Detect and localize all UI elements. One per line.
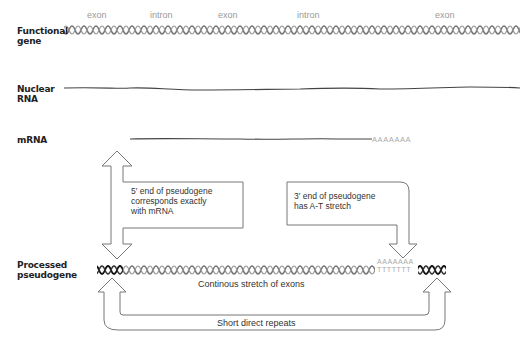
processed-pseudogene-label: Processed pseudogene	[17, 260, 77, 280]
label-line: Functional	[17, 26, 68, 36]
label-line: gene	[17, 36, 68, 46]
annotation-line: 5′ end of pseudogene	[131, 186, 212, 196]
five-prime-annotation: 5′ end of pseudogene corresponds exactly…	[131, 186, 212, 216]
continuous-stretch-label: Continous stretch of exons	[198, 279, 305, 289]
segment-label-intron: intron	[150, 10, 173, 20]
nuclear-rna-strand	[64, 87, 520, 90]
segment-label-exon: exon	[218, 10, 238, 20]
label-line: Processed	[17, 260, 77, 270]
label-line: pseudogene	[17, 270, 77, 280]
annotation-line: with mRNA	[131, 206, 212, 216]
segment-label-intron: intron	[297, 10, 320, 20]
functional-gene-helix	[64, 23, 520, 35]
three-prime-annotation: 3′ end of pseudogene has A-T stretch	[294, 191, 375, 211]
nuclear-rna-label: Nuclear RNA	[17, 84, 55, 104]
segment-label-exon: exon	[435, 10, 455, 20]
short-direct-repeats-label: Short direct repeats	[217, 318, 296, 328]
pseudogene-poly-a: AAAAAAA	[377, 258, 414, 265]
functional-gene-label: Functional gene	[17, 26, 68, 46]
pseudogene-poly-t: TTTTTTT	[377, 266, 411, 273]
mrna-poly-a-tail: AAAAAAA	[372, 135, 411, 144]
mrna-strand	[130, 139, 372, 140]
mrna-label: mRNA	[17, 135, 47, 145]
annotation-line: has A-T stretch	[294, 201, 375, 211]
segment-label-exon: exon	[87, 10, 107, 20]
label-line: Nuclear	[17, 84, 55, 94]
annotation-line: corresponds exactly	[131, 196, 212, 206]
annotation-line: 3′ end of pseudogene	[294, 191, 375, 201]
diagram-canvas	[0, 0, 530, 342]
label-line: RNA	[17, 94, 55, 104]
